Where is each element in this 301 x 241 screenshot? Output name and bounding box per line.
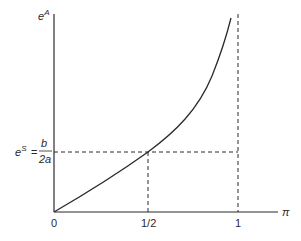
y-axis-label: eA [38, 8, 49, 22]
x-axis-label: π [282, 206, 290, 218]
x-tick-1: 1 [235, 217, 241, 229]
equals-sign: = [31, 146, 37, 158]
fraction-numerator: b [41, 137, 47, 149]
x-tick-half: 1/2 [141, 217, 156, 229]
eA-curve [54, 18, 231, 212]
x-tick-0: 0 [51, 217, 57, 229]
diagram-figure: eA eS = b 2a 0 1/2 1 π [0, 0, 301, 241]
fraction-denominator: 2a [38, 153, 51, 165]
eS-label: eS [15, 144, 27, 158]
